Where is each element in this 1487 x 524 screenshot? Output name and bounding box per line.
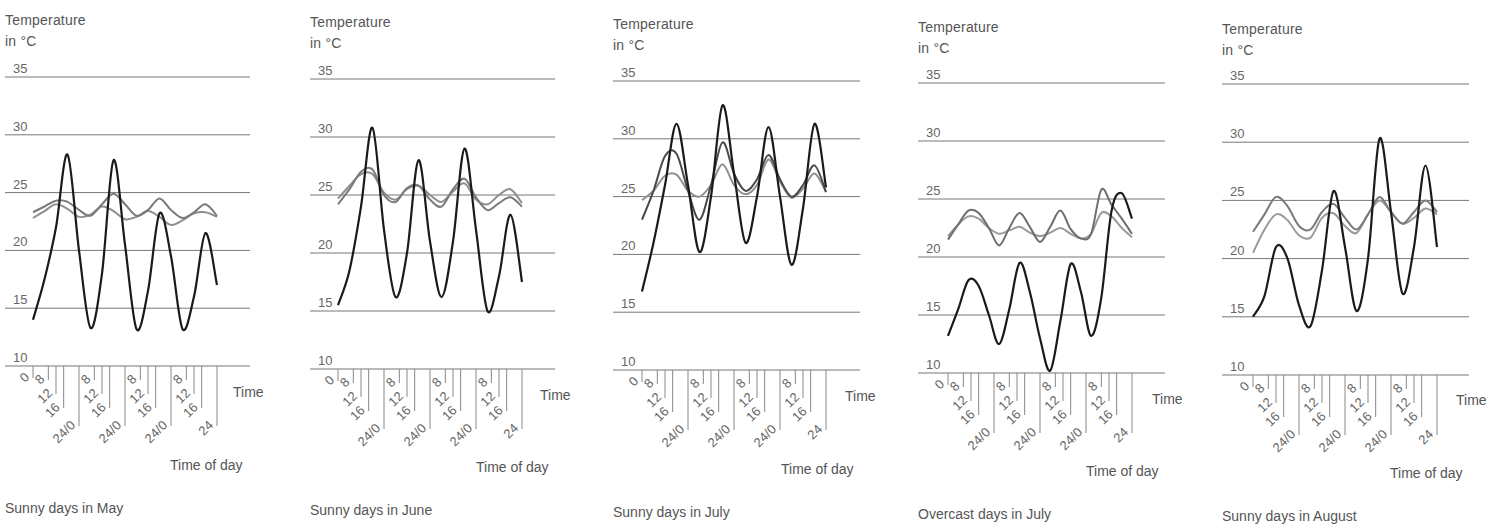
y-tick-label: 20 [13, 234, 27, 249]
line-chart: 10152025303508121624/08121624/08121624/0… [305, 0, 565, 521]
x-tick-label: 8 [78, 372, 94, 388]
y-tick-label: 35 [318, 63, 332, 78]
x-tick-label: 8 [1390, 381, 1406, 397]
chart-caption: Sunny days in July [613, 504, 730, 520]
x-tick-label: 8 [1039, 379, 1055, 395]
chart-panel-july-sunny: Temperaturein °C 10152025303508121624/08… [608, 0, 870, 521]
x-tick-label: 24/0 [50, 418, 79, 447]
x-tick-label: 24 [1110, 425, 1131, 446]
x-tick-label: 24/0 [751, 422, 780, 451]
series-line-outside-air [33, 154, 217, 330]
y-tick-label: 10 [1230, 359, 1244, 374]
x-tick-label: 24/0 [447, 421, 476, 450]
x-tick-label: 24 [804, 422, 825, 443]
x-tick-label: 24 [500, 421, 521, 442]
x-tick-label: 24/0 [965, 425, 994, 454]
x-tick-label: 8 [124, 372, 140, 388]
x-axis-name: Time [845, 388, 876, 404]
line-chart: 10152025303508121624/08121624/08121624/0… [0, 0, 260, 521]
y-tick-label: 20 [926, 241, 940, 256]
y-tick-label: 30 [13, 119, 27, 134]
x-tick-label: 8 [32, 372, 48, 388]
y-tick-label: 30 [318, 121, 332, 136]
x-tick-label: 8 [993, 379, 1009, 395]
chart-panel-june: Temperaturein °C 10152025303508121624/08… [305, 0, 567, 521]
y-tick-label: 35 [621, 65, 635, 80]
x-tick-label: 8 [1298, 381, 1314, 397]
x-tick-label: 8 [383, 375, 399, 391]
series-line-outside-air [1253, 138, 1437, 327]
y-tick-label: 20 [1230, 243, 1244, 258]
x-tick-label: 8 [779, 376, 795, 392]
y-tick-label: 15 [621, 296, 635, 311]
y-tick-label: 15 [318, 295, 332, 310]
x-tick-label: 8 [733, 376, 749, 392]
y-tick-label: 20 [621, 238, 635, 253]
chart-caption: Sunny days in May [5, 500, 123, 516]
y-tick-label: 10 [318, 353, 332, 368]
chart-caption: Sunny days in August [1222, 508, 1357, 524]
series-line-outside-air [338, 128, 522, 313]
x-axis-title: Time of day [476, 459, 549, 475]
series-line-outside-air [642, 105, 826, 291]
y-tick-label: 25 [1230, 184, 1244, 199]
x-tick-label: 8 [641, 376, 657, 392]
x-tick-label: 24/0 [1362, 427, 1391, 456]
y-tick-label: 10 [13, 350, 27, 365]
x-tick-label: 0 [321, 373, 337, 389]
x-tick-label: 8 [947, 379, 963, 395]
line-chart: 10152025303508121624/08121624/08121624/0… [608, 0, 868, 521]
x-tick-label: 8 [429, 375, 445, 391]
y-tick-label: 10 [621, 354, 635, 369]
chart-caption: Sunny days in June [310, 502, 432, 518]
x-axis-name: Time [1152, 391, 1183, 407]
y-tick-label: 25 [621, 181, 635, 196]
x-tick-label: 24/0 [705, 422, 734, 451]
series-line-room-B [948, 212, 1132, 239]
x-tick-label: 8 [475, 375, 491, 391]
x-axis-name: Time [1456, 392, 1487, 408]
x-axis-title: Time of day [1086, 463, 1159, 479]
y-tick-label: 30 [1230, 126, 1244, 141]
x-tick-label: 8 [687, 376, 703, 392]
y-tick-label: 35 [13, 61, 27, 76]
y-tick-label: 15 [926, 299, 940, 314]
y-tick-label: 25 [926, 183, 940, 198]
x-tick-label: 0 [16, 370, 32, 386]
x-axis-title: Time of day [1390, 465, 1463, 481]
x-tick-label: 8 [1252, 381, 1268, 397]
chart-panel-july-overcast: Temperaturein °C 10152025303508121624/08… [913, 0, 1175, 521]
x-tick-label: 8 [1085, 379, 1101, 395]
x-tick-label: 0 [1236, 379, 1252, 395]
x-tick-label: 24/0 [659, 422, 688, 451]
chart-caption: Overcast days in July [918, 506, 1051, 522]
x-tick-label: 24/0 [1057, 425, 1086, 454]
chart-panel-may: Temperaturein °C 10152025303508121624/08… [0, 0, 262, 521]
chart-panel-august: Temperaturein °C 10152025303508121624/08… [1217, 0, 1479, 521]
x-tick-label: 24/0 [401, 421, 430, 450]
y-tick-label: 20 [318, 237, 332, 252]
x-tick-label: 8 [337, 375, 353, 391]
y-tick-label: 15 [13, 292, 27, 307]
x-axis-title: Time of day [781, 461, 854, 477]
x-tick-label: 24/0 [1270, 427, 1299, 456]
y-tick-label: 15 [1230, 301, 1244, 316]
x-tick-label: 8 [1344, 381, 1360, 397]
x-tick-label: 24 [195, 418, 216, 439]
y-tick-label: 30 [621, 123, 635, 138]
line-chart: 10152025303508121624/08121624/08121624/0… [913, 0, 1173, 521]
y-tick-label: 25 [318, 179, 332, 194]
y-tick-label: 35 [1230, 68, 1244, 83]
x-tick-label: 24/0 [1316, 427, 1345, 456]
x-tick-label: 8 [170, 372, 186, 388]
x-axis-name: Time [233, 384, 264, 400]
line-chart: 10152025303508121624/08121624/08121624/0… [1217, 0, 1477, 521]
series-line-outside-air [948, 193, 1132, 371]
x-tick-label: 24/0 [1011, 425, 1040, 454]
x-axis-title: Time of day [170, 457, 243, 473]
x-tick-label: 0 [931, 377, 947, 393]
y-tick-label: 30 [926, 125, 940, 140]
x-axis-name: Time [540, 387, 571, 403]
y-tick-label: 35 [926, 67, 940, 82]
x-tick-label: 24/0 [355, 421, 384, 450]
